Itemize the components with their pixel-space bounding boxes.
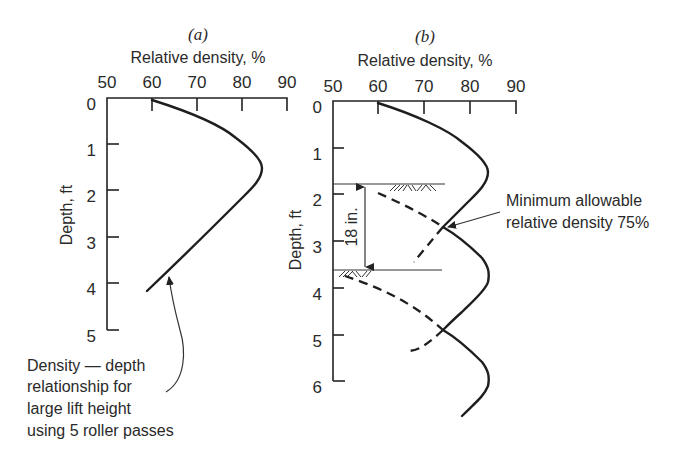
lift-1-tail-dashed-curve xyxy=(414,227,443,262)
x-tick-label: 60 xyxy=(369,77,388,96)
y-tick-label: 2 xyxy=(313,191,322,210)
lift-3-dashed-curve xyxy=(345,276,443,330)
panel-a-axes xyxy=(107,98,287,330)
y-tick-label: 1 xyxy=(313,145,322,164)
y-tick-label: 4 xyxy=(313,285,322,304)
dimension-label: 18 in. xyxy=(343,207,360,246)
lift-2-dashed-curve xyxy=(378,193,443,227)
annotation-line: relative density 75% xyxy=(506,214,649,231)
ground-hatch-upper xyxy=(390,185,436,191)
annotation-line: Density — depth xyxy=(27,357,145,374)
panel-a-density-curve xyxy=(147,100,262,291)
x-tick-label: 70 xyxy=(415,77,434,96)
figure-canvas: (a) Relative density, % 50 60 70 80 90 0… xyxy=(0,0,694,458)
annotation-line: large lift height xyxy=(27,400,132,417)
ground-hatch-lower xyxy=(339,271,371,277)
panel-a-x-axis-title: Relative density, % xyxy=(131,49,266,66)
y-tick-label: 2 xyxy=(87,187,96,206)
panel-b: (b) Relative density, % 50 60 70 80 90 0… xyxy=(287,27,649,416)
panel-b-y-tick-labels: 0 1 2 3 4 5 6 xyxy=(313,98,322,397)
panel-b-annotation: Minimum allowable relative density 75% xyxy=(506,192,649,231)
panel-a: (a) Relative density, % 50 60 70 80 90 0… xyxy=(27,25,296,439)
panel-a-label: (a) xyxy=(188,25,208,44)
y-tick-label: 5 xyxy=(87,327,96,346)
y-tick-label: 5 xyxy=(313,332,322,351)
x-tick-label: 90 xyxy=(278,73,297,92)
x-tick-label: 50 xyxy=(324,77,343,96)
panel-b-density-curve xyxy=(378,103,489,416)
y-tick-label: 0 xyxy=(313,98,322,117)
x-tick-label: 70 xyxy=(188,73,207,92)
panel-a-y-axis-title: Depth, ft xyxy=(58,184,75,245)
x-tick-label: 90 xyxy=(507,77,526,96)
panel-a-y-ticks xyxy=(107,144,119,330)
annotation-line: using 5 roller passes xyxy=(27,422,174,439)
y-tick-label: 3 xyxy=(87,234,96,253)
panel-b-y-axis-title: Depth, ft xyxy=(287,209,304,270)
panel-b-y-ticks xyxy=(333,148,345,381)
lift-2-tail-dashed-curve xyxy=(405,330,443,351)
panel-a-y-tick-labels: 0 1 2 3 4 5 xyxy=(87,95,96,346)
y-tick-label: 1 xyxy=(87,141,96,160)
panel-b-label: (b) xyxy=(415,27,435,46)
panel-a-annotation-arrow xyxy=(166,277,183,392)
y-tick-label: 6 xyxy=(313,378,322,397)
x-tick-label: 80 xyxy=(233,73,252,92)
y-tick-label: 0 xyxy=(87,95,96,114)
x-tick-label: 50 xyxy=(98,73,117,92)
panel-b-x-tick-labels: 50 60 70 80 90 xyxy=(324,77,526,96)
panel-a-x-tick-labels: 50 60 70 80 90 xyxy=(98,73,297,92)
panel-b-x-axis-title: Relative density, % xyxy=(358,52,493,69)
annotation-line: relationship for xyxy=(27,378,133,395)
panel-a-annotation: Density — depth relationship for large l… xyxy=(27,357,174,439)
x-tick-label: 80 xyxy=(461,77,480,96)
y-tick-label: 4 xyxy=(87,280,96,299)
annotation-line: Minimum allowable xyxy=(506,192,642,209)
y-tick-label: 3 xyxy=(313,238,322,257)
panel-b-axes xyxy=(333,101,516,381)
x-tick-label: 60 xyxy=(143,73,162,92)
